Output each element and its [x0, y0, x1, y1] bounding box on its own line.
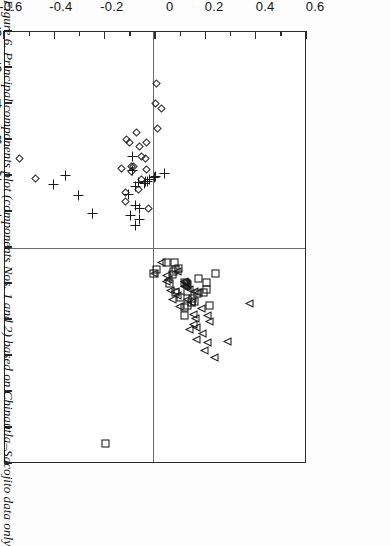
figure-caption: Figure 6. Principal components plot (com… [0, 0, 390, 546]
figure-page: PRINCIPAL COMPONENT #2 PRINCIPAL COMPONE… [0, 0, 390, 546]
